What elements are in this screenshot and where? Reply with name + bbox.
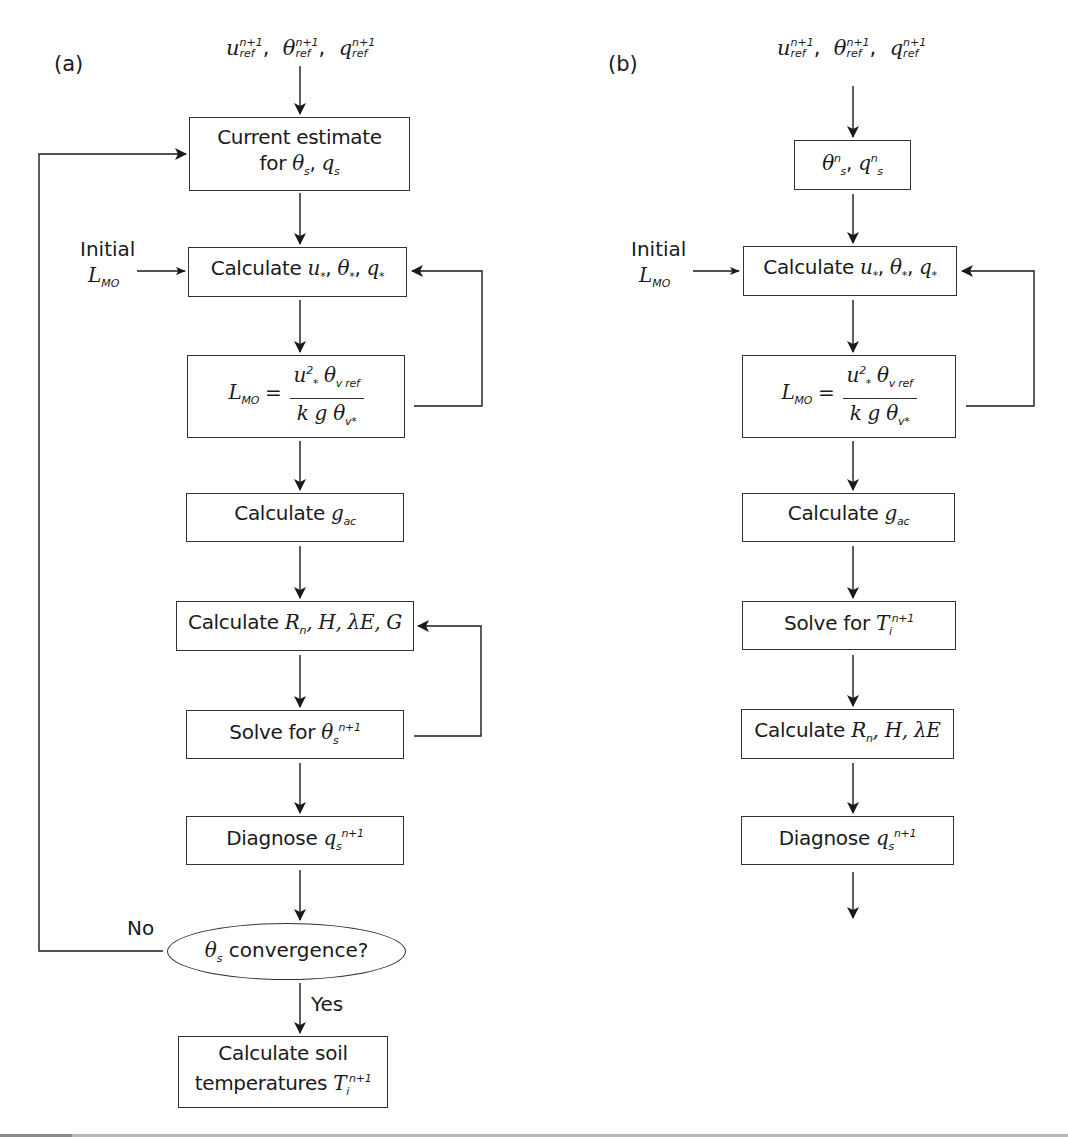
diagnose-humidity-box: Diagnose qsn+1 — [186, 816, 404, 865]
calculate-scaling-params-box: Calculate u*, θ*, q* — [188, 247, 407, 297]
solve-surface-temperature-box: Solve for θsn+1 — [186, 710, 404, 759]
panel-b-label: (b) — [608, 52, 638, 76]
loop-lmo-to-calc — [412, 271, 482, 406]
calculate-fluxes-box: Calculate Rn, H, λE, G — [176, 601, 414, 651]
obukhov-length-formula-box: LMO = u2* θv ref k g θv* — [187, 355, 405, 438]
no-branch-label: No — [127, 916, 154, 940]
initial-lmo-label: Initial LMO — [80, 236, 135, 297]
b-calculate-scaling-params-box: Calculate u*, θ*, q* — [743, 246, 957, 296]
b-calculate-fluxes-box: Calculate Rn, H, λE — [741, 709, 954, 759]
b-initial-lmo-label: Initial LMO — [631, 236, 686, 297]
panel-a-reference-inputs: un+1ref, θn+1ref, qn+1ref — [226, 36, 375, 60]
b-surface-state-box: θns, qns — [794, 140, 911, 190]
panel-a-label: (a) — [54, 52, 83, 76]
b-obukhov-length-formula-box: LMO = u2* θv ref k g θv* — [742, 355, 956, 438]
loop-solve-to-fluxes — [414, 626, 481, 736]
convergence-decision: θs convergence? — [167, 923, 406, 980]
calculate-conductance-box: Calculate gac — [186, 493, 404, 542]
soil-temperatures-box: Calculate soil temperatures Tin+1 — [178, 1036, 388, 1108]
b-diagnose-humidity-box: Diagnose qsn+1 — [741, 816, 954, 865]
yes-branch-label: Yes — [311, 992, 343, 1016]
b-calculate-conductance-box: Calculate gac — [742, 493, 955, 542]
b-solve-soil-temperature-box: Solve for Tin+1 — [742, 601, 956, 650]
loop-b-lmo-to-calc — [962, 271, 1034, 406]
current-estimate-box: Current estimate for θs, qs — [189, 117, 410, 191]
panel-b-reference-inputs: un+1ref, θn+1ref, qn+1ref — [777, 36, 926, 60]
